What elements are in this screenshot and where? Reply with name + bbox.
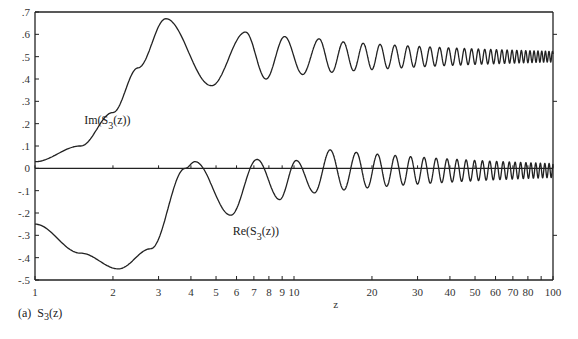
y-tick-label: .4 [22,73,31,85]
x-tick-label: 10 [289,286,301,298]
x-tick-label: 50 [470,286,482,298]
y-tick-label: -.1 [18,185,30,197]
y-tick-label: -.2 [18,207,30,219]
x-tick-label: 60 [490,286,502,298]
x-tick-label: 8 [266,286,272,298]
x-tick-label: 2 [110,286,116,298]
x-tick-label: 40 [444,286,456,298]
y-tick-label: 0 [25,162,31,174]
y-tick-label: .3 [22,95,31,107]
x-tick-label: 9 [279,286,285,298]
y-tick-label: .6 [22,28,31,40]
x-tick-label: 7 [251,286,257,298]
x-tick-label: 80 [522,286,534,298]
y-tick-label: .5 [22,51,31,63]
im-s3-curve [35,19,553,162]
y-tick-label: .2 [22,118,30,130]
chart-plot: .7.6.5.4.3.2.10-.1-.2-.3-.4-.51234567891… [0,0,578,339]
y-tick-label: -.5 [18,274,30,286]
re-s3-label: Re(S3(z)) [233,224,279,242]
y-tick-label: -.3 [18,229,30,241]
figure-caption: (a) S3(z) [18,306,62,322]
caption-prefix: (a) [18,306,31,320]
caption-func: S [37,306,44,320]
x-axis-label: z [333,298,338,310]
x-tick-label: 3 [156,286,162,298]
x-tick-label: 30 [412,286,424,298]
y-tick-label: -.4 [18,252,30,264]
x-tick-label: 4 [188,286,194,298]
im-s3-label: Im(S3(z)) [84,113,130,131]
x-tick-label: 5 [213,286,219,298]
caption-arg: (z) [49,306,62,320]
y-tick-label: .7 [22,6,31,18]
x-tick-label: 100 [545,286,562,298]
x-tick-label: 6 [234,286,240,298]
y-tick-label: .1 [22,140,30,152]
x-tick-label: 20 [366,286,378,298]
x-tick-label: 1 [32,286,38,298]
x-tick-label: 70 [507,286,519,298]
